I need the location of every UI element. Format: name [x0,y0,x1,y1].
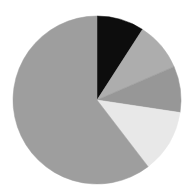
pie-chart-figure [0,0,195,195]
pie-slice-group [13,16,181,184]
pie-chart-svg [0,0,195,195]
